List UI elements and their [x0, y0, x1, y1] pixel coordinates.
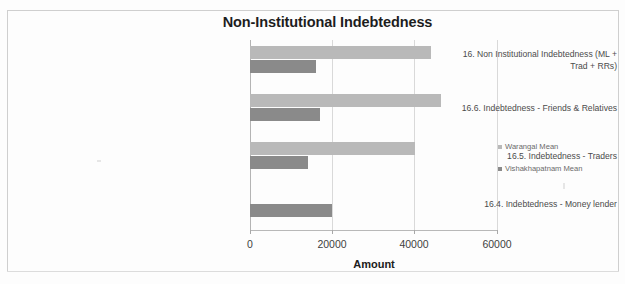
x-tick-mark-0	[250, 230, 251, 234]
legend-label-warangal-mean: Warangal Mean	[505, 142, 558, 151]
scan-speckle	[563, 183, 565, 189]
y-axis-label-non-institutional-line2: Trad + RRs)	[570, 61, 617, 71]
legend-swatch-vishakhapatnam-icon	[498, 167, 502, 171]
x-tick-mark-60000	[497, 230, 498, 234]
x-tick-label-40000: 40000	[384, 238, 444, 250]
x-axis-title: Amount	[250, 258, 498, 270]
legend-item-vishakhapatnam-mean: Vishakhapatnam Mean	[498, 164, 624, 173]
x-tick-mark-20000	[332, 230, 333, 234]
legend-swatch-warangal-icon	[498, 145, 502, 149]
figure-border-bottom	[7, 271, 619, 272]
bar-vishakhapatnam-friends-relatives	[250, 108, 320, 121]
scanned-chart-page: Non-Institutional Indebtedness	[0, 0, 625, 284]
scan-speckle	[97, 160, 101, 162]
x-tick-label-20000: 20000	[302, 238, 362, 250]
x-tick-label-60000: 60000	[467, 238, 527, 250]
chart-legend: Warangal Mean Vishakhapatnam Mean	[498, 142, 624, 186]
y-axis-label-money-lender: 16.4. Indebtedness - Money lender	[387, 199, 625, 211]
y-axis-label-non-institutional: 16. Non Institutional Indebtedness (ML +…	[387, 49, 625, 72]
x-axis-line	[250, 230, 498, 231]
legend-label-vishakhapatnam-mean: Vishakhapatnam Mean	[505, 164, 583, 173]
bar-vishakhapatnam-money-lender	[250, 204, 332, 217]
x-tick-mark-40000	[414, 230, 415, 234]
bar-vishakhapatnam-non-institutional	[250, 60, 316, 73]
y-axis-label-non-institutional-line1: 16. Non Institutional Indebtedness (ML +	[463, 49, 617, 59]
bar-vishakhapatnam-traders	[250, 156, 308, 169]
x-tick-label-0: 0	[220, 238, 280, 250]
y-axis-label-friends-relatives: 16.6. Indebtedness - Friends & Relatives	[387, 103, 625, 115]
legend-item-warangal-mean: Warangal Mean	[498, 142, 624, 151]
chart-title: Non-Institutional Indebtedness	[0, 14, 625, 30]
